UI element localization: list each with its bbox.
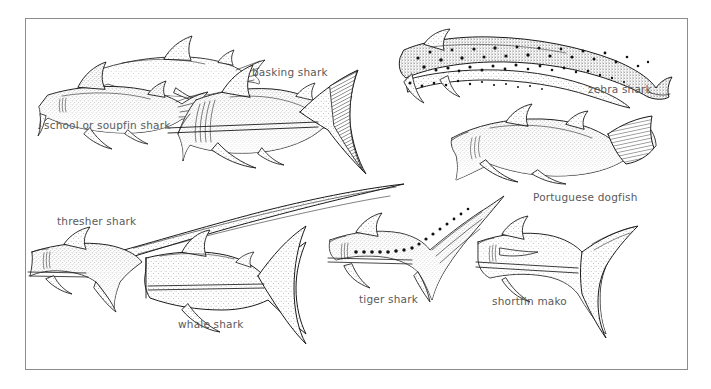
label-thresher-shark: thresher shark: [57, 216, 136, 227]
label-portuguese-dogfish: Portuguese dogfish: [533, 192, 638, 203]
label-zebra-shark: zebra shark: [588, 84, 652, 95]
label-whale-shark: whale shark: [178, 319, 244, 330]
label-school-or-soupfin-shark: school or soupfin shark: [44, 120, 170, 131]
label-basking-shark: basking shark: [252, 67, 328, 78]
label-tiger-shark: tiger shark: [359, 294, 418, 305]
illustration-plate: school or soupfin shark basking shark ze…: [0, 0, 711, 389]
label-shortfin-mako: shortfin mako: [492, 296, 567, 307]
